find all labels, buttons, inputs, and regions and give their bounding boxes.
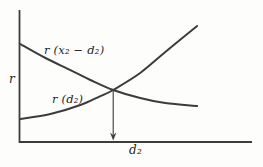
curve-1 xyxy=(20,26,197,119)
intersecting-curves-diagram: r (x₂ − d₂) r (d₂) r d₂ xyxy=(0,0,263,167)
y-axis-label: r xyxy=(9,73,15,86)
curve-label-r-x2-minus-d2: r (x₂ − d₂) xyxy=(44,44,104,57)
plot-canvas xyxy=(0,0,263,167)
curve-label-r-d2: r (d₂) xyxy=(52,93,83,106)
x-axis-label: d₂ xyxy=(129,144,142,157)
